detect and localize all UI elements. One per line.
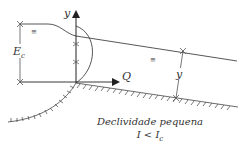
y-axis-label: y — [63, 7, 71, 20]
caption-slope-type: Declividade pequena — [96, 116, 203, 127]
caption-slope-condition: I < Ic — [136, 129, 164, 143]
q-axis-label: Q — [122, 70, 131, 83]
water-surface-symbol-right: ≡ — [150, 56, 156, 64]
specific-energy-curve — [76, 26, 93, 83]
channel-bed-slope — [76, 83, 238, 110]
open-channel-flow-diagram: ≡ ≡ y Q Ec y Declividade pequena I < Ic — [0, 0, 248, 154]
depth-label: y — [175, 68, 183, 81]
water-surface-symbol-left: ≡ — [31, 28, 37, 36]
water-surface — [20, 24, 237, 61]
channel-bed-curve — [8, 83, 76, 122]
